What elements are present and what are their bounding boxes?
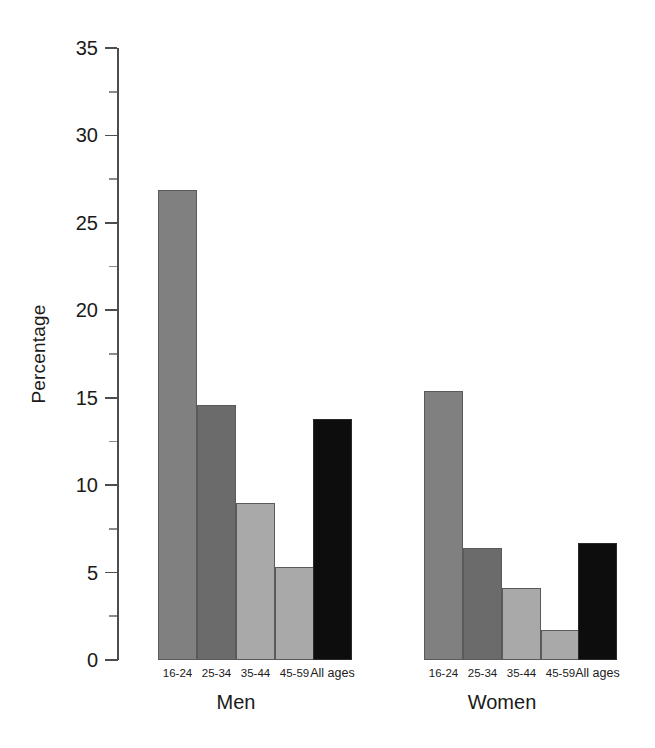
x-tick-label-women-all-ages: All ages (560, 667, 635, 680)
bar-men-35-44 (236, 503, 275, 660)
bar-women-45-59 (541, 630, 580, 660)
bar-women-25-34 (463, 548, 502, 660)
plot-area: 16-2425-3435-4445-59All agesMen16-2425-3… (0, 0, 655, 748)
bar-women-16-24 (424, 391, 463, 660)
bar-men-16-24 (158, 190, 197, 660)
group-label-men: Men (156, 692, 316, 712)
x-tick-label-women-25-34: 25-34 (463, 668, 502, 680)
x-tick-label-men-all-ages: All ages (295, 667, 370, 680)
x-tick-label-women-35-44: 35-44 (502, 668, 541, 680)
x-tick-label-men-35-44: 35-44 (236, 668, 275, 680)
bar-women-35-44 (502, 588, 541, 660)
bar-chart: Percentage 05101520253035 16-2425-3435-4… (0, 0, 655, 748)
group-label-women: Women (422, 692, 582, 712)
bar-men-all-ages (313, 419, 352, 660)
x-tick-label-men-25-34: 25-34 (197, 668, 236, 680)
bar-women-all-ages (578, 543, 617, 660)
bar-men-25-34 (197, 405, 236, 660)
bar-men-45-59 (275, 567, 314, 660)
x-tick-label-women-16-24: 16-24 (424, 668, 463, 680)
x-tick-label-men-16-24: 16-24 (158, 668, 197, 680)
